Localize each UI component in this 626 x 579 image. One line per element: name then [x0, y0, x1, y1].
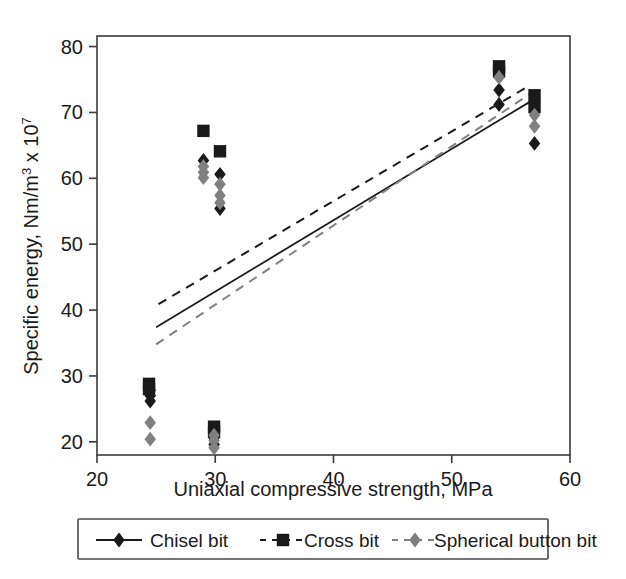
- y-axis-title-exp2: 7: [19, 117, 34, 124]
- legend-marker-1: [277, 534, 289, 546]
- svg-text:Specific energy, Nm/m3 x 107: Specific energy, Nm/m3 x 107: [19, 117, 42, 375]
- data-point-cross-bit: [197, 125, 209, 137]
- y-tick-label: 40: [61, 299, 83, 321]
- y-tick-label: 70: [61, 101, 83, 123]
- x-tick-label: 60: [559, 468, 581, 490]
- data-point-cross-bit: [528, 89, 540, 101]
- y-tick-label: 30: [61, 365, 83, 387]
- y-axis-title: Specific energy, Nm/m3 x 107: [19, 117, 42, 375]
- y-tick-label: 80: [61, 36, 83, 58]
- scatter-chart: 2030405060 20304050607080 Uniaxial compr…: [0, 0, 626, 579]
- y-axis-title-prefix: Specific energy, Nm/m: [20, 175, 42, 375]
- legend-items-group: Chisel bitCross bitSpherical button bit: [96, 530, 597, 551]
- y-tick-label: 50: [61, 233, 83, 255]
- data-point-cross-bit: [214, 145, 226, 157]
- data-point-cross-bit: [143, 383, 155, 395]
- legend-label-1[interactable]: Cross bit: [304, 530, 380, 551]
- figure-container: 2030405060 20304050607080 Uniaxial compr…: [0, 0, 626, 579]
- chart-legend: Chisel bitCross bitSpherical button bit: [78, 519, 597, 559]
- x-axis-title: Uniaxial compressive strength, MPa: [173, 478, 493, 500]
- y-tick-label: 20: [61, 431, 83, 453]
- y-axis-title-mid: x 10: [20, 124, 42, 167]
- legend-label-0[interactable]: Chisel bit: [150, 530, 229, 551]
- legend-label-2[interactable]: Spherical button bit: [434, 530, 597, 551]
- y-tick-label: 60: [61, 167, 83, 189]
- y-axis-title-exp1: 3: [19, 168, 34, 175]
- x-tick-label: 20: [86, 468, 108, 490]
